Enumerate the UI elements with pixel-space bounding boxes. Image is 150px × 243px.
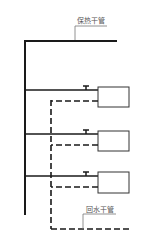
return-main-label: 回水干管 <box>86 205 114 214</box>
valves <box>83 86 89 176</box>
radiator-2 <box>98 131 129 151</box>
radiator-1 <box>98 87 129 107</box>
radiators <box>98 87 129 193</box>
heating-diagram: 保热干管 <box>0 0 150 243</box>
supply-main-label: 保热干管 <box>77 16 105 25</box>
return-main-label-group: 回水干管 <box>83 205 116 229</box>
radiator-3 <box>98 172 129 193</box>
supply-main-label-group: 保热干管 <box>75 16 107 41</box>
